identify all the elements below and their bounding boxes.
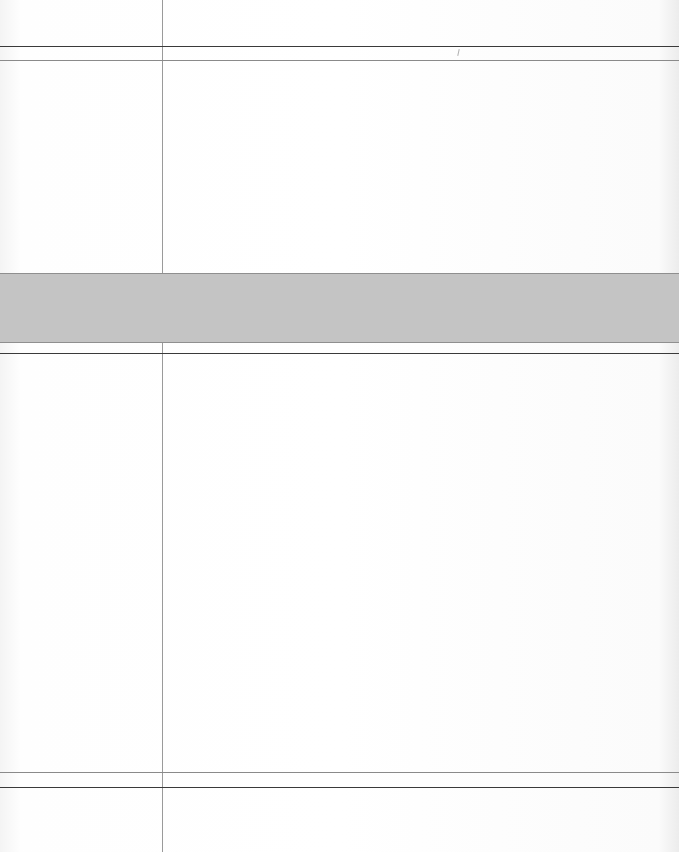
form-page xyxy=(0,0,679,852)
pen-mark xyxy=(457,49,459,56)
footer-rule-top xyxy=(0,772,679,773)
shaded-band xyxy=(0,273,679,343)
footer-rule-bottom xyxy=(0,787,679,788)
lower-section-rule xyxy=(0,353,679,354)
column-divider xyxy=(162,0,163,852)
header-rule-top xyxy=(0,46,679,47)
header-rule-bottom xyxy=(0,60,679,61)
